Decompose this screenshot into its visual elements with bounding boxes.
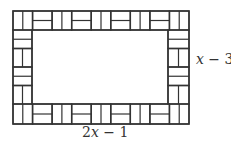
inner-frame-border (32, 30, 168, 104)
width-label: 2x − 1 (82, 124, 128, 140)
tile-frame-diagram (0, 0, 231, 144)
height-label: x − 3 (196, 51, 231, 67)
